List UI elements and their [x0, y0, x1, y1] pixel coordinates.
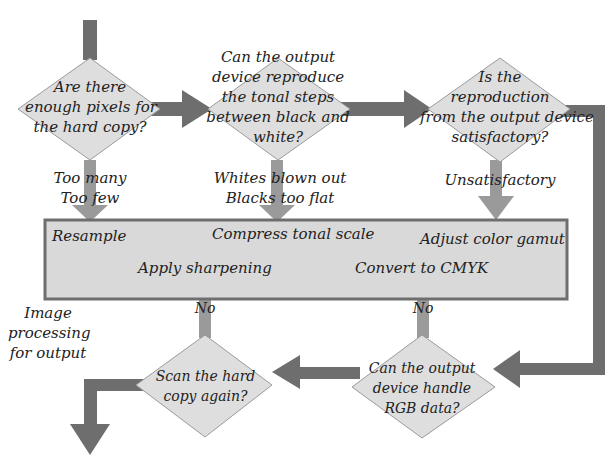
text-line: Blacks too flat — [205, 188, 355, 208]
entry-arrow — [83, 20, 97, 60]
process-convert-cmyk: Convert to CMYK — [355, 258, 488, 278]
text-line: white? — [203, 127, 353, 147]
text-line: for output — [8, 343, 88, 363]
text-line: the tonal steps — [203, 87, 353, 107]
arrow-loop-bottom — [520, 363, 605, 375]
arrowhead-d3-box — [478, 196, 514, 220]
text-line: between black and — [203, 107, 353, 127]
text-line: copy again? — [148, 386, 263, 406]
process-resample: Resample — [52, 226, 126, 246]
text-line: from the output device — [420, 107, 580, 127]
branch-label-d4-no: No — [408, 298, 438, 318]
text-line: Whites blown out — [205, 168, 355, 188]
text-line: reproduction — [420, 87, 580, 107]
decision-d3-text: Is the reproduction from the output devi… — [420, 67, 580, 147]
branch-label-d5-no: No — [190, 298, 220, 318]
text-line: Is the — [420, 67, 580, 87]
image-processing-label: Image processing for output — [8, 303, 88, 363]
arrowhead-to-d4 — [493, 350, 520, 388]
text-line: enough pixels for — [25, 97, 155, 117]
arrow-d4-d5 — [290, 367, 360, 379]
process-adjust-gamut: Adjust color gamut — [420, 229, 565, 249]
arrowhead-exit — [70, 424, 110, 455]
text-line: device reproduce — [203, 67, 353, 87]
branch-label-d2: Whites blown out Blacks too flat — [205, 168, 355, 208]
text-line: Can the output — [203, 47, 353, 67]
text-line: Can the output — [362, 358, 482, 378]
branch-label-d3: Unsatisfactory — [440, 170, 560, 190]
text-line: Image — [8, 303, 88, 323]
decision-d2-text: Can the output device reproduce the tona… — [203, 47, 353, 147]
branch-label-d1: Too many Too few — [40, 168, 140, 208]
text-line: satisfactory? — [420, 127, 580, 147]
text-line: the hard copy? — [25, 117, 155, 137]
process-sharpening: Apply sharpening — [138, 258, 272, 278]
text-line: device handle — [362, 378, 482, 398]
decision-d4-text: Can the output device handle RGB data? — [362, 358, 482, 418]
arrow-loop-vertical — [593, 105, 605, 375]
text-line: Scan the hard — [148, 366, 263, 386]
text-line: RGB data? — [362, 398, 482, 418]
text-line: Too few — [40, 188, 140, 208]
arrow-exit-vertical — [84, 379, 97, 429]
decision-d1-text: Are there enough pixels for the hard cop… — [25, 77, 155, 137]
process-compress-tonal: Compress tonal scale — [212, 224, 375, 244]
decision-d5-text: Scan the hard copy again? — [148, 366, 263, 406]
text-line: Unsatisfactory — [440, 170, 560, 190]
arrowhead-d4-d5 — [272, 355, 300, 389]
text-line: Too many — [40, 168, 140, 188]
text-line: processing — [8, 323, 88, 343]
text-line: Are there — [25, 77, 155, 97]
